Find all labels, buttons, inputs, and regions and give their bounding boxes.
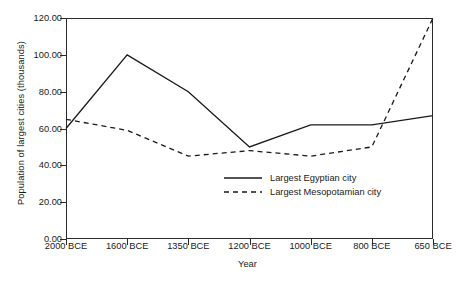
x-tick-mark xyxy=(127,239,128,245)
x-tick-mark xyxy=(311,239,312,245)
legend-solid-line-icon xyxy=(224,173,262,183)
y-tick-label: 100.00 xyxy=(8,50,62,60)
legend-item-largest-mesopotamian-city: Largest Mesopotamian city xyxy=(224,185,381,199)
y-tick-label: 40.00 xyxy=(8,160,62,170)
x-axis-title: Year xyxy=(60,259,435,269)
y-tick-label: 20.00 xyxy=(8,197,62,207)
legend-item-largest-egyptian-city: Largest Egyptian city xyxy=(224,171,381,185)
y-tick-label: 120.00 xyxy=(8,13,62,23)
y-tick-label: 60.00 xyxy=(8,124,62,134)
legend-dashed-line-icon xyxy=(224,187,262,197)
x-tick-mark xyxy=(188,239,189,245)
y-axis-tick-labels: 0.0020.0040.0060.0080.00100.00120.00 xyxy=(4,0,62,282)
legend-label-1: Largest Mesopotamian city xyxy=(270,187,381,197)
y-tick-label: 80.00 xyxy=(8,87,62,97)
series-line-largest-mesopotamian-city xyxy=(66,18,433,156)
x-tick-mark xyxy=(250,239,251,245)
x-tick-label: 650 BCE xyxy=(393,241,456,251)
x-tick-mark xyxy=(372,239,373,245)
x-tick-mark xyxy=(433,239,434,245)
chart-legend: Largest Egyptian city Largest Mesopotami… xyxy=(224,171,381,199)
x-tick-mark xyxy=(66,239,67,245)
legend-label-0: Largest Egyptian city xyxy=(270,173,356,183)
plot-data-layer xyxy=(66,18,433,239)
